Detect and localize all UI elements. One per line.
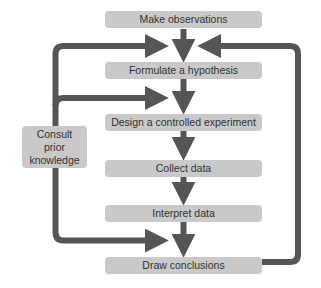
- consult-line-3: knowledge: [22, 154, 87, 167]
- step-formulate-hypothesis: Formulate a hypothesis: [105, 62, 262, 79]
- scientific-method-diagram: Make observations Formulate a hypothesis…: [0, 0, 321, 288]
- consult-line-1: Consult: [22, 128, 87, 141]
- consult-prior-knowledge-box: Consult prior knowledge: [22, 126, 87, 168]
- arrow-consult-mid: [56, 98, 159, 106]
- step-design-experiment: Design a controlled experiment: [105, 114, 262, 131]
- step-draw-conclusions: Draw conclusions: [105, 257, 262, 274]
- consult-line-2: prior: [22, 141, 87, 154]
- step-interpret-data: Interpret data: [105, 205, 262, 222]
- step-collect-data: Collect data: [105, 160, 262, 177]
- step-make-observations: Make observations: [105, 11, 262, 28]
